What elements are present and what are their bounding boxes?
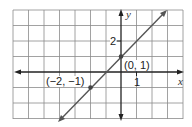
x-axis-left-arrow-icon <box>14 70 21 75</box>
point-label-0-1: (0, 1) <box>124 60 150 71</box>
grid <box>13 10 183 119</box>
point-label-neg2-neg1: (−2, −1) <box>46 76 85 87</box>
x-tick-label: 1 <box>134 77 140 88</box>
point-0-1 <box>119 54 124 59</box>
y-axis-down-arrow-icon <box>119 114 124 121</box>
x-axis-label: x <box>178 76 183 87</box>
point-neg2-neg1 <box>88 85 93 90</box>
coordinate-plane <box>0 0 192 127</box>
y-axis-label: y <box>126 9 131 20</box>
y-tick-label: 2 <box>110 36 116 47</box>
